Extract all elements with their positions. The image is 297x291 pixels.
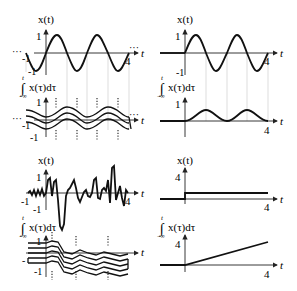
svg-text:x(τ)dτ: x(τ)dτ [29,81,57,94]
x-tick-minus-1: -1 [21,196,29,207]
y-tick-1: 1 [175,30,181,42]
int-y-tick-4: 4 [175,238,181,250]
integration-diagram: x(t) 1 -1 -1 4 t ··· ··· t ∫ −∞ x(τ)dτ 1… [0,0,297,291]
svg-text:−∞: −∞ [157,233,165,239]
t-label: t [280,193,284,205]
ellipsis-left: ··· [12,46,22,57]
svg-text:−∞: −∞ [19,233,27,239]
panel-top-right: x(t) 1 -1 4 t t ∫ −∞ x(τ)dτ 1 4 t [157,13,284,137]
integral-label: t ∫ −∞ x(τ)dτ [157,214,196,239]
int-y-tick-1: 1 [36,235,42,247]
int-x-tick-4: 4 [264,268,270,280]
int-x-tick-minus: - [22,255,25,266]
panel-bottom-right: x(t) 4 4 t t ∫ −∞ x(τ)dτ 4 4 t [157,154,284,280]
int-ellipsis-left: ··· [12,113,22,124]
int-ellipsis-right: ··· [129,109,139,120]
t-label: t [141,187,145,199]
x-tick-4: 4 [264,201,270,213]
svg-text:−∞: −∞ [157,93,165,99]
y-tick-minus-1: -1 [176,67,184,78]
panel-bottom-left: x(t) 1 -1 -1 4 t t ∫ −∞ x(τ)dτ 1 - -1 t [19,154,145,280]
int-x-tick-4: 4 [264,124,270,136]
int-y-tick-minus-1: -1 [30,132,38,143]
panel-top-left: x(t) 1 -1 -1 4 t ··· ··· t ∫ −∞ x(τ)dτ 1… [12,13,145,143]
x-of-t-label: x(t) [177,13,193,26]
ellipsis-right: ··· [129,42,139,53]
t-label: t [141,47,145,59]
integral-family-curves [26,107,131,129]
svg-text:x(τ)dτ: x(τ)dτ [168,221,196,234]
y-tick-4: 4 [175,171,181,183]
x-of-t-label: x(t) [38,154,54,167]
t-label: t [280,47,284,59]
integral-curve [160,110,268,121]
guide-lines [206,53,268,121]
x-of-t-label: x(t) [38,13,54,26]
y-tick-1: 1 [36,30,42,42]
int-y-tick-minus-1: -1 [34,266,42,277]
integral-family-curves [28,241,128,276]
int-y-tick-1: 1 [36,96,42,108]
int-t-label: t [280,115,284,127]
y-tick-1: 1 [36,171,42,183]
int-t-label: t [141,246,145,258]
int-t-label: t [280,259,284,271]
x-of-t-label: x(t) [177,154,193,167]
svg-text:x(τ)dτ: x(τ)dτ [29,221,57,234]
step-curve [160,193,268,199]
y-tick-minus-1: -1 [33,204,41,215]
int-y-tick-1: 1 [175,98,181,110]
svg-text:x(τ)dτ: x(τ)dτ [168,81,196,94]
svg-text:−∞: −∞ [19,93,27,99]
int-t-label: t [141,114,145,126]
